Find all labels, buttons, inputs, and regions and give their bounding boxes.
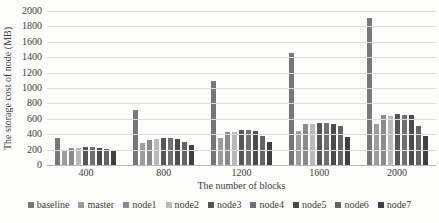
legend-swatch-icon [250, 202, 256, 208]
legend-label: master [87, 199, 114, 210]
legend-item-node1: node1 [123, 199, 156, 210]
bar-node3-1600 [317, 123, 322, 166]
bar-node4-800 [168, 138, 173, 165]
bar-node1-2000 [381, 115, 386, 165]
legend-item-node6: node6 [335, 199, 368, 210]
bar-node5-1600 [331, 124, 336, 165]
bar-node7-400 [111, 150, 116, 165]
bar-node2-800 [154, 139, 159, 165]
legend-swatch-icon [378, 202, 384, 208]
y-tick-label: 600 [27, 114, 42, 124]
bar-node3-800 [161, 138, 166, 165]
y-tick-label: 400 [27, 129, 42, 139]
bar-node7-1600 [345, 137, 350, 165]
bar-master-2000 [374, 124, 379, 165]
bar-node7-1200 [267, 142, 272, 165]
bar-node1-1600 [303, 124, 308, 165]
legend-label: baseline [37, 199, 70, 210]
legend-swatch-icon [166, 202, 172, 208]
plot-area [47, 11, 436, 166]
gridline [47, 88, 436, 89]
bar-node5-1200 [253, 131, 258, 165]
bar-node5-2000 [409, 115, 414, 165]
legend-swatch-icon [78, 202, 84, 208]
bar-master-1600 [296, 131, 301, 165]
gridline [47, 103, 436, 104]
gridline [47, 134, 436, 135]
legend-item-node4: node4 [250, 199, 283, 210]
y-tick-label: 1200 [22, 68, 42, 78]
gridline [47, 150, 436, 151]
bar-node1-800 [147, 140, 152, 165]
legend-swatch-icon [123, 202, 129, 208]
bar-node2-1600 [310, 124, 315, 165]
y-tick-label: 200 [27, 145, 42, 155]
legend-swatch-icon [208, 202, 214, 208]
gridline [47, 73, 436, 74]
x-axis-ticks: 400800120016002000 [47, 167, 436, 178]
bar-master-800 [140, 143, 145, 165]
y-tick-label: 1400 [22, 52, 42, 62]
y-tick-label: 800 [27, 98, 42, 108]
x-tick-label: 400 [47, 167, 125, 178]
x-tick-label: 1600 [280, 167, 358, 178]
gridline [47, 57, 436, 58]
legend-swatch-icon [335, 202, 341, 208]
bar-node3-2000 [395, 114, 400, 165]
bar-node1-400 [69, 148, 74, 165]
legend-label: node4 [259, 199, 283, 210]
bar-node6-400 [104, 149, 109, 165]
legend-label: node6 [344, 199, 368, 210]
y-tick-label: 1600 [22, 37, 42, 47]
bar-node2-2000 [388, 116, 393, 165]
legend-label: node2 [175, 199, 199, 210]
bar-node6-1600 [338, 126, 343, 165]
gridline [47, 42, 436, 43]
legend-label: node7 [387, 199, 411, 210]
bar-master-1200 [218, 138, 223, 165]
bar-baseline-1200 [211, 81, 216, 165]
legend-label: node1 [132, 199, 156, 210]
bar-master-400 [62, 150, 67, 165]
y-tick-label: 2000 [22, 6, 42, 16]
gridline [47, 11, 436, 12]
legend-item-node7: node7 [378, 199, 411, 210]
bar-node4-2000 [402, 115, 407, 166]
bar-node5-800 [175, 139, 180, 165]
bar-node4-1600 [324, 123, 329, 165]
legend: baselinemasternode1node2node3node4node5n… [0, 199, 439, 210]
y-tick-label: 1800 [22, 21, 42, 31]
x-tick-label: 2000 [358, 167, 436, 178]
legend-item-node5: node5 [293, 199, 326, 210]
legend-item-node3: node3 [208, 199, 241, 210]
y-axis-ticks: 0200400600800100012001400160018002000 [0, 11, 44, 165]
y-tick-label: 0 [37, 160, 42, 170]
bar-node2-1200 [232, 132, 237, 165]
x-tick-label: 800 [125, 167, 203, 178]
legend-item-baseline: baseline [28, 199, 70, 210]
bar-node7-800 [189, 145, 194, 165]
bar-node4-1200 [246, 130, 251, 165]
bar-baseline-400 [55, 138, 60, 165]
gridline [47, 119, 436, 120]
bar-baseline-1600 [289, 53, 294, 165]
bar-node6-2000 [416, 126, 421, 165]
legend-label: node3 [217, 199, 241, 210]
y-tick-label: 1000 [22, 83, 42, 93]
x-tick-label: 1200 [203, 167, 281, 178]
bar-baseline-2000 [367, 18, 372, 165]
bar-node6-800 [182, 142, 187, 165]
legend-swatch-icon [28, 202, 34, 208]
gridline [47, 26, 436, 27]
x-axis-title: The number of blocks [47, 180, 436, 191]
legend-swatch-icon [293, 202, 299, 208]
storage-cost-bar-chart: The storage cost of node (MB) 0200400600… [0, 0, 439, 223]
legend-item-node2: node2 [166, 199, 199, 210]
legend-item-master: master [78, 199, 114, 210]
legend-label: node5 [302, 199, 326, 210]
